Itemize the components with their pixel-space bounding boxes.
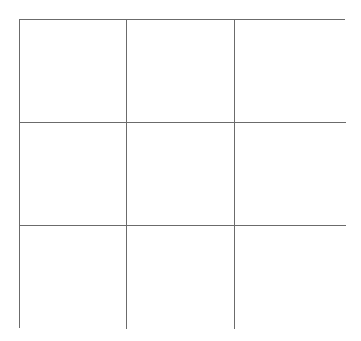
tic-tac-toe-board <box>19 19 345 328</box>
cell-2-0[interactable] <box>20 226 127 329</box>
cell-1-2[interactable] <box>235 123 346 226</box>
cell-1-0[interactable] <box>20 123 127 226</box>
cell-0-2[interactable] <box>235 20 346 123</box>
cell-1-1[interactable] <box>127 123 235 226</box>
cell-0-0[interactable] <box>20 20 127 123</box>
cell-0-1[interactable] <box>127 20 235 123</box>
cell-2-2[interactable] <box>235 226 346 329</box>
cell-2-1[interactable] <box>127 226 235 329</box>
